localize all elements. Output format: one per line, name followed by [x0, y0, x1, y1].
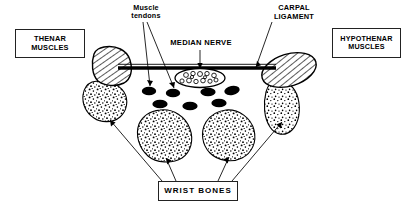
muscle-tendon-shapes: [142, 84, 241, 110]
thenar-muscle-shape: [92, 47, 131, 86]
label-box-thenar-muscles: THENAR MUSCLES: [15, 29, 85, 58]
label-box-wrist-bones: WRIST BONES: [158, 181, 238, 201]
label-median-nerve: MEDIAN NERVE: [166, 39, 236, 48]
tendon: [182, 102, 197, 111]
bone-left-inner: [137, 110, 191, 162]
tendon: [166, 89, 180, 98]
median-nerve-shape: [175, 69, 225, 88]
leader-muscle-tendons-a: [143, 22, 150, 86]
tendon: [152, 100, 167, 109]
hypothenar-muscle-shape: [258, 47, 321, 94]
wrist-bone-shapes: [83, 80, 300, 162]
median-nerve-label: MEDIAN NERVE: [170, 38, 232, 47]
thenar-label-line2: MUSCLES: [31, 43, 69, 52]
leader-muscle-tendons-b: [147, 22, 174, 88]
hypothenar-label-line2: MUSCLES: [348, 42, 385, 51]
muscle-tendons-line2: tendons: [131, 11, 160, 20]
tendon: [200, 88, 215, 96]
tendon: [211, 99, 226, 108]
label-carpal-ligament: CARPAL LIGAMENT: [266, 4, 322, 21]
leader-carpal-ligament: [256, 22, 272, 67]
carpal-ligament-line2: LIGAMENT: [274, 12, 314, 21]
diagram-canvas: THENAR MUSCLES HYPOTHENAR MUSCLES WRIST …: [0, 0, 412, 209]
bone-right-inner: [203, 110, 255, 161]
tendon: [142, 87, 156, 96]
tendon: [223, 84, 240, 96]
carpal-ligament-band: [118, 64, 276, 68]
label-box-hypothenar-muscles: HYPOTHENAR MUSCLES: [332, 28, 401, 58]
label-muscle-tendons: Muscle tendons: [122, 4, 170, 21]
bone-left-outer: [83, 81, 127, 122]
wrist-bones-label: WRIST BONES: [164, 186, 231, 195]
